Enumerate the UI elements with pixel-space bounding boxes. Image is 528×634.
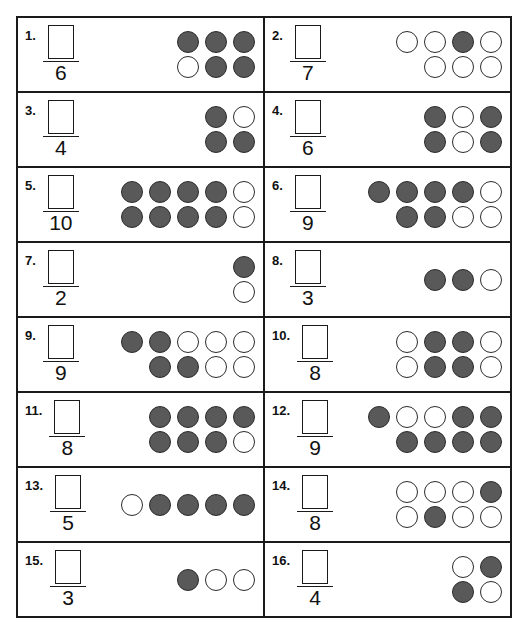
counter-empty-icon[interactable]: [396, 406, 418, 428]
numerator-answer-box[interactable]: [48, 100, 74, 134]
counter-empty-icon[interactable]: [424, 481, 446, 503]
counter-empty-icon[interactable]: [205, 356, 227, 378]
counter-filled-icon[interactable]: [177, 494, 199, 516]
counter-empty-icon[interactable]: [396, 31, 418, 53]
counter-empty-icon[interactable]: [233, 331, 255, 353]
counter-empty-icon[interactable]: [480, 356, 502, 378]
counter-filled-icon[interactable]: [480, 131, 502, 153]
counter-filled-icon[interactable]: [480, 481, 502, 503]
counter-filled-icon[interactable]: [205, 206, 227, 228]
counter-filled-icon[interactable]: [452, 581, 474, 603]
counter-filled-icon[interactable]: [177, 181, 199, 203]
counter-empty-icon[interactable]: [396, 331, 418, 353]
counter-empty-icon[interactable]: [205, 569, 227, 591]
counter-empty-icon[interactable]: [233, 431, 255, 453]
counter-empty-icon[interactable]: [452, 556, 474, 578]
counter-empty-icon[interactable]: [480, 581, 502, 603]
counter-empty-icon[interactable]: [396, 481, 418, 503]
counter-empty-icon[interactable]: [452, 56, 474, 78]
counter-filled-icon[interactable]: [452, 31, 474, 53]
counter-empty-icon[interactable]: [396, 356, 418, 378]
counter-filled-icon[interactable]: [452, 181, 474, 203]
counter-filled-icon[interactable]: [205, 56, 227, 78]
numerator-answer-box[interactable]: [48, 325, 74, 359]
counter-filled-icon[interactable]: [480, 556, 502, 578]
counter-empty-icon[interactable]: [452, 131, 474, 153]
counter-empty-icon[interactable]: [452, 106, 474, 128]
numerator-answer-box[interactable]: [48, 25, 74, 59]
numerator-answer-box[interactable]: [302, 475, 328, 509]
counter-filled-icon[interactable]: [233, 256, 255, 278]
counter-filled-icon[interactable]: [452, 269, 474, 291]
counter-filled-icon[interactable]: [121, 206, 143, 228]
counter-filled-icon[interactable]: [149, 331, 171, 353]
counter-filled-icon[interactable]: [396, 206, 418, 228]
numerator-answer-box[interactable]: [295, 100, 321, 134]
counter-filled-icon[interactable]: [205, 31, 227, 53]
counter-empty-icon[interactable]: [480, 506, 502, 528]
counter-empty-icon[interactable]: [480, 56, 502, 78]
counter-filled-icon[interactable]: [424, 206, 446, 228]
counter-empty-icon[interactable]: [233, 356, 255, 378]
counter-filled-icon[interactable]: [368, 406, 390, 428]
counter-filled-icon[interactable]: [177, 569, 199, 591]
counter-empty-icon[interactable]: [452, 506, 474, 528]
counter-empty-icon[interactable]: [480, 331, 502, 353]
counter-empty-icon[interactable]: [121, 494, 143, 516]
counter-filled-icon[interactable]: [177, 431, 199, 453]
numerator-answer-box[interactable]: [302, 550, 328, 584]
counter-filled-icon[interactable]: [233, 406, 255, 428]
numerator-answer-box[interactable]: [302, 325, 328, 359]
counter-filled-icon[interactable]: [121, 331, 143, 353]
counter-empty-icon[interactable]: [233, 106, 255, 128]
counter-filled-icon[interactable]: [149, 406, 171, 428]
counter-empty-icon[interactable]: [480, 206, 502, 228]
numerator-answer-box[interactable]: [302, 400, 328, 434]
counter-empty-icon[interactable]: [452, 481, 474, 503]
counter-empty-icon[interactable]: [396, 506, 418, 528]
counter-filled-icon[interactable]: [205, 106, 227, 128]
counter-filled-icon[interactable]: [233, 56, 255, 78]
numerator-answer-box[interactable]: [54, 400, 80, 434]
counter-empty-icon[interactable]: [233, 569, 255, 591]
counter-filled-icon[interactable]: [424, 181, 446, 203]
counter-filled-icon[interactable]: [233, 494, 255, 516]
numerator-answer-box[interactable]: [55, 475, 81, 509]
counter-filled-icon[interactable]: [233, 131, 255, 153]
counter-filled-icon[interactable]: [205, 406, 227, 428]
counter-filled-icon[interactable]: [424, 106, 446, 128]
counter-filled-icon[interactable]: [368, 181, 390, 203]
counter-filled-icon[interactable]: [396, 431, 418, 453]
counter-empty-icon[interactable]: [233, 206, 255, 228]
counter-empty-icon[interactable]: [424, 406, 446, 428]
numerator-answer-box[interactable]: [55, 550, 81, 584]
counter-filled-icon[interactable]: [205, 181, 227, 203]
numerator-answer-box[interactable]: [295, 25, 321, 59]
counter-filled-icon[interactable]: [149, 181, 171, 203]
counter-empty-icon[interactable]: [177, 331, 199, 353]
counter-filled-icon[interactable]: [480, 106, 502, 128]
counter-filled-icon[interactable]: [205, 494, 227, 516]
counter-filled-icon[interactable]: [149, 206, 171, 228]
counter-empty-icon[interactable]: [233, 281, 255, 303]
counter-filled-icon[interactable]: [452, 356, 474, 378]
counter-empty-icon[interactable]: [177, 56, 199, 78]
counter-filled-icon[interactable]: [396, 181, 418, 203]
counter-filled-icon[interactable]: [177, 356, 199, 378]
numerator-answer-box[interactable]: [295, 175, 321, 209]
counter-filled-icon[interactable]: [424, 269, 446, 291]
counter-filled-icon[interactable]: [149, 356, 171, 378]
counter-filled-icon[interactable]: [424, 506, 446, 528]
counter-filled-icon[interactable]: [177, 206, 199, 228]
counter-empty-icon[interactable]: [424, 56, 446, 78]
counter-filled-icon[interactable]: [205, 131, 227, 153]
counter-empty-icon[interactable]: [480, 31, 502, 53]
counter-filled-icon[interactable]: [452, 331, 474, 353]
counter-empty-icon[interactable]: [424, 31, 446, 53]
counter-empty-icon[interactable]: [233, 181, 255, 203]
counter-filled-icon[interactable]: [424, 356, 446, 378]
counter-filled-icon[interactable]: [205, 431, 227, 453]
counter-filled-icon[interactable]: [424, 331, 446, 353]
counter-filled-icon[interactable]: [149, 494, 171, 516]
counter-filled-icon[interactable]: [233, 31, 255, 53]
